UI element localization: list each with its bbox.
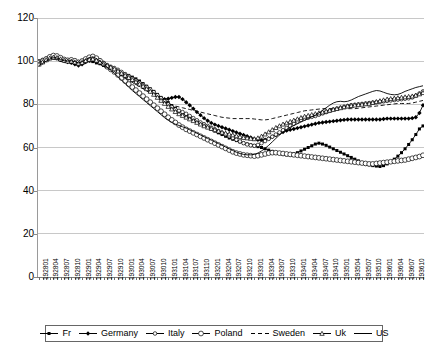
series-uk xyxy=(38,55,424,141)
x-tick-label: 192904 xyxy=(95,258,102,280)
legend-swatch-italy xyxy=(145,329,165,338)
data-point-marker xyxy=(404,147,407,150)
series-sweden xyxy=(39,59,423,120)
x-tick-label: 193301 xyxy=(257,258,264,280)
legend-item-sweden[interactable]: Sweden xyxy=(250,329,306,338)
x-tick-label: 193510 xyxy=(375,258,382,280)
data-point-marker xyxy=(422,124,425,127)
data-point-marker xyxy=(260,141,264,145)
legend-swatch-germany xyxy=(78,329,98,338)
data-point-marker xyxy=(292,127,296,131)
data-point-marker xyxy=(306,123,310,127)
data-point-marker xyxy=(256,143,260,147)
x-tick-label: 193604 xyxy=(397,258,404,280)
data-point-marker xyxy=(213,122,217,126)
series-line xyxy=(39,56,423,145)
data-point-marker xyxy=(421,103,424,107)
data-point-marker xyxy=(418,127,421,130)
legend-swatch-sweden xyxy=(250,329,270,338)
data-point-marker xyxy=(338,118,342,122)
x-tick-label: 193210 xyxy=(246,258,253,280)
legend-item-poland[interactable]: Poland xyxy=(191,329,242,338)
legend-swatch-fr xyxy=(39,329,59,338)
data-point-marker xyxy=(209,121,213,125)
y-tick-label: 100 xyxy=(4,56,34,66)
data-point-marker xyxy=(328,146,331,149)
data-point-marker xyxy=(339,151,342,154)
data-point-marker xyxy=(249,144,253,148)
data-point-marker xyxy=(263,139,267,143)
data-point-marker xyxy=(166,97,170,101)
data-point-marker xyxy=(299,149,302,152)
data-point-marker xyxy=(303,148,306,151)
legend-swatch-us xyxy=(353,329,373,338)
y-axis-labels: 120100806040200 xyxy=(0,0,34,347)
data-point-marker xyxy=(335,149,338,152)
x-tick-label: 193610 xyxy=(418,258,425,280)
data-point-marker xyxy=(378,117,382,121)
data-point-marker xyxy=(238,140,242,144)
data-point-marker xyxy=(199,331,204,336)
x-tick-label: 193304 xyxy=(268,258,275,280)
data-point-marker xyxy=(220,125,224,129)
data-point-marker xyxy=(324,120,328,124)
x-tick-label: 193004 xyxy=(138,258,145,280)
x-tick-label: 193307 xyxy=(278,258,285,280)
data-point-marker xyxy=(317,121,321,125)
x-tick-label: 192807 xyxy=(63,258,70,280)
x-tick-label: 193001 xyxy=(128,258,135,280)
legend-item-germany[interactable]: Germany xyxy=(78,329,138,338)
data-point-marker xyxy=(314,143,317,146)
data-point-marker xyxy=(350,156,353,159)
data-point-marker xyxy=(321,143,324,146)
legend-item-us[interactable]: US xyxy=(353,329,389,338)
data-point-marker xyxy=(270,135,274,139)
x-tick-label: 192901 xyxy=(85,258,92,280)
data-point-marker xyxy=(407,143,410,146)
data-point-marker xyxy=(331,119,335,123)
legend-label: Germany xyxy=(101,329,138,338)
x-tick-label: 193204 xyxy=(225,258,232,280)
plot-area xyxy=(38,18,424,277)
data-point-marker xyxy=(274,133,278,137)
legend-swatch-poland xyxy=(191,329,211,338)
data-point-marker xyxy=(335,119,339,123)
chart-container: 120100806040200 192801192804192807192810… xyxy=(0,0,426,347)
chart-legend: FrGermanyItalyPolandSwedenUkUS xyxy=(45,325,383,342)
x-tick-label: 192907 xyxy=(106,258,113,280)
data-point-marker xyxy=(406,116,410,120)
legend-item-uk[interactable]: Uk xyxy=(312,329,346,338)
series-line xyxy=(39,59,423,120)
y-tick-label: 80 xyxy=(4,99,34,109)
x-tick-label: 193101 xyxy=(171,258,178,280)
legend-item-fr[interactable]: Fr xyxy=(39,329,71,338)
data-point-marker xyxy=(381,117,385,121)
legend-item-italy[interactable]: Italy xyxy=(145,329,185,338)
data-point-marker xyxy=(310,122,314,126)
legend-label: Fr xyxy=(62,329,71,338)
legend-swatch-uk xyxy=(312,329,332,338)
x-tick-label: 192910 xyxy=(117,258,124,280)
x-tick-label: 193410 xyxy=(332,258,339,280)
legend-label: Poland xyxy=(214,329,242,338)
data-point-marker xyxy=(299,125,303,129)
x-tick-label: 192804 xyxy=(52,258,59,280)
data-point-marker xyxy=(342,118,346,122)
data-point-marker xyxy=(332,147,335,150)
y-tick-label: 0 xyxy=(4,272,34,282)
data-point-marker xyxy=(400,151,403,154)
data-point-marker xyxy=(317,142,320,145)
x-tick-label: 193207 xyxy=(235,258,242,280)
x-tick-label: 193504 xyxy=(354,258,361,280)
data-point-marker xyxy=(307,146,310,149)
data-point-marker xyxy=(302,124,306,128)
series-italy xyxy=(38,55,424,148)
x-tick-label: 193501 xyxy=(343,258,350,280)
x-tick-label: 193404 xyxy=(311,258,318,280)
x-tick-label: 193110 xyxy=(203,259,210,280)
data-point-marker xyxy=(223,126,227,130)
data-point-marker xyxy=(177,95,181,99)
x-tick-label: 193107 xyxy=(192,258,199,280)
data-point-marker xyxy=(170,96,174,100)
data-point-marker xyxy=(242,141,246,145)
